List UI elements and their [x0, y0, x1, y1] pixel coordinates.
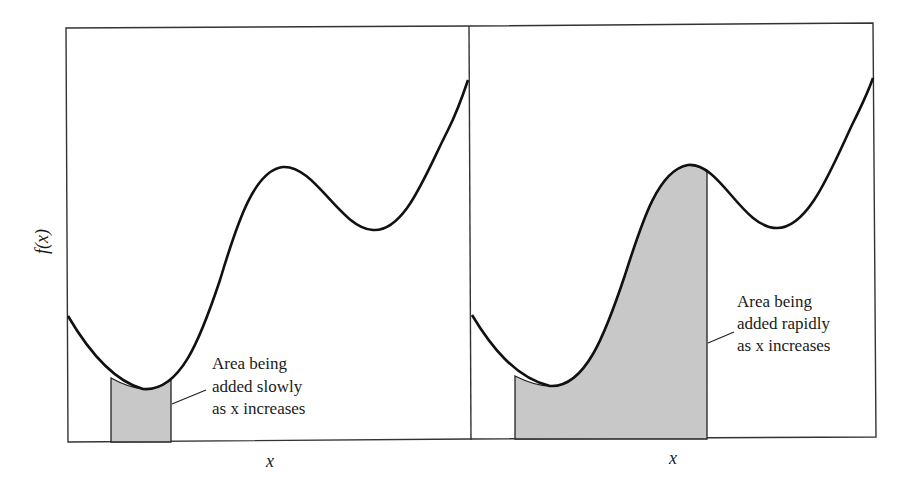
- right-panel: Area being added rapidly as x increases …: [472, 78, 873, 468]
- y-axis-label: f(x): [32, 229, 53, 254]
- right-leader-line: [708, 332, 734, 343]
- right-annotation-line-2: added rapidly: [737, 314, 830, 333]
- left-leader-line: [172, 390, 206, 404]
- right-x-axis-label: x: [668, 448, 677, 468]
- frame: [66, 23, 876, 442]
- right-annotation-line-1: Area being: [737, 292, 813, 311]
- panel-divider: [469, 26, 471, 440]
- left-annotation-line-2: added slowly: [212, 377, 303, 396]
- left-curve: [68, 80, 468, 389]
- left-annotation-line-3: as x increases: [212, 399, 305, 418]
- left-annotation-line-1: Area being: [212, 354, 288, 373]
- area-accumulation-figure: Area being added slowly as x increases x…: [0, 0, 911, 485]
- right-shaded-area: [515, 165, 707, 439]
- right-annotation-line-3: as x increases: [737, 336, 830, 355]
- left-x-axis-label: x: [265, 451, 274, 471]
- left-panel: Area being added slowly as x increases x: [68, 80, 468, 471]
